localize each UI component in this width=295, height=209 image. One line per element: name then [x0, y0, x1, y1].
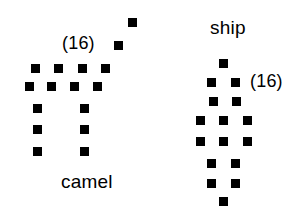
figure-ship: ship(16)	[0, 0, 295, 209]
count-label-ship: (16)	[250, 72, 283, 90]
dot-ship	[207, 159, 216, 168]
dot-ship	[209, 97, 218, 106]
dot-ship	[207, 179, 216, 188]
dot-ship	[219, 137, 228, 146]
dot-pattern-figure: camel(16) ship(16)	[0, 0, 295, 209]
label-ship: ship	[210, 18, 246, 37]
dot-ship	[243, 116, 252, 125]
dot-ship	[232, 97, 241, 106]
dot-ship	[219, 197, 228, 206]
dot-ship	[207, 78, 216, 87]
dot-ship	[219, 116, 228, 125]
dot-ship	[231, 179, 240, 188]
dot-ship	[231, 78, 240, 87]
dot-ship	[231, 159, 240, 168]
dot-ship	[243, 137, 252, 146]
dot-ship	[196, 116, 205, 125]
dot-ship	[219, 59, 228, 68]
dot-ship	[196, 137, 205, 146]
